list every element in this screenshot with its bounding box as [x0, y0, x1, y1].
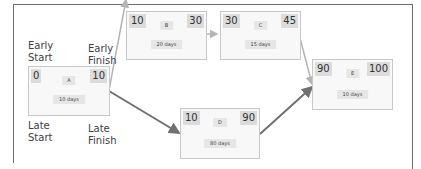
early-start-value: 10	[183, 111, 200, 125]
early-finish-value: 100	[367, 62, 390, 76]
activity-node-a[interactable]: 0 A 10 10 days	[28, 66, 110, 116]
activity-name: A	[62, 76, 75, 85]
activity-node-d[interactable]: 10 D 90 80 days	[180, 108, 260, 159]
duration-label: 10 days	[337, 90, 369, 99]
early-start-value: 0	[31, 69, 41, 83]
activity-name: E	[346, 69, 359, 78]
early-start-label: Early Start	[28, 40, 53, 64]
activity-name: B	[160, 21, 173, 30]
activity-name: C	[254, 21, 268, 30]
early-finish-value: 30	[187, 14, 204, 28]
late-finish-label: Late Finish	[88, 123, 116, 147]
early-start-value: 30	[223, 14, 240, 28]
duration-label: 20 days	[151, 40, 183, 49]
early-start-value: 90	[315, 62, 332, 76]
activity-node-c[interactable]: 30 C 45 15 days	[220, 11, 301, 60]
early-finish-value: 90	[240, 111, 257, 125]
activity-node-e[interactable]: 90 E 100 10 days	[312, 59, 393, 110]
activity-name: D	[213, 118, 227, 127]
arrow-d-to-e	[260, 87, 312, 134]
activity-node-b[interactable]: 10 B 30 20 days	[126, 11, 207, 60]
duration-label: 80 days	[204, 139, 236, 148]
early-finish-value: 10	[90, 69, 107, 83]
early-finish-label: Early Finish	[88, 43, 116, 67]
early-finish-value: 45	[281, 14, 298, 28]
early-start-value: 10	[129, 14, 146, 28]
duration-label: 10 days	[53, 95, 85, 104]
arrow-a-to-d	[109, 91, 179, 133]
duration-label: 15 days	[245, 40, 277, 49]
late-start-label: Late Start	[28, 120, 52, 144]
arrow-c-to-e	[300, 38, 312, 84]
